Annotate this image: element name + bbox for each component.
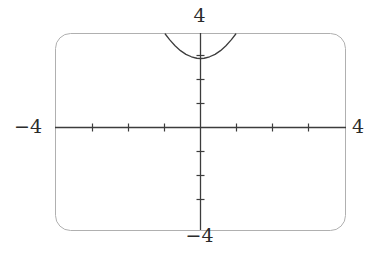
plot-canvas <box>0 0 381 254</box>
graph-figure: 4 −4 −4 4 <box>0 0 381 254</box>
x-min-label: −4 <box>14 117 42 136</box>
y-max-label: 4 <box>0 6 381 25</box>
x-max-label: 4 <box>352 117 364 136</box>
y-min-label: −4 <box>0 226 381 245</box>
